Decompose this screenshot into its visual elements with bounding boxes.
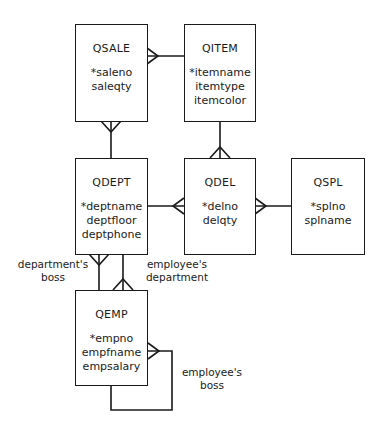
attribute: *itemname bbox=[185, 66, 255, 80]
entity-qdel: QDEL *delno delqty bbox=[184, 158, 256, 255]
attribute: deptphone bbox=[76, 228, 147, 242]
attribute: empsalary bbox=[76, 360, 147, 374]
attribute: deptfloor bbox=[76, 214, 147, 228]
entity-qdept: QDEPT *deptname deptfloor deptphone bbox=[75, 158, 148, 255]
entity-name: QDEPT bbox=[76, 176, 147, 189]
label-employees-department: employee's department bbox=[140, 258, 214, 284]
entity-qitem: QITEM *itemname itemtype itemcolor bbox=[184, 24, 256, 122]
attribute: splname bbox=[292, 214, 364, 228]
label-employees-boss: employee's boss bbox=[180, 366, 244, 392]
entity-name: QEMP bbox=[76, 308, 147, 321]
entity-name: QSALE bbox=[76, 42, 147, 55]
entity-qspl: QSPL *splno splname bbox=[291, 158, 365, 255]
attribute: *empno bbox=[76, 332, 147, 346]
entity-name: QSPL bbox=[292, 176, 364, 189]
entity-name: QITEM bbox=[185, 42, 255, 55]
entity-qemp: QEMP *empno empfname empsalary bbox=[75, 290, 148, 386]
entity-name: QDEL bbox=[185, 176, 255, 189]
label-departments-boss: department's boss bbox=[14, 258, 92, 284]
attribute: *deptname bbox=[76, 200, 147, 214]
attribute: delqty bbox=[185, 214, 255, 228]
attribute: *delno bbox=[185, 200, 255, 214]
attribute: empfname bbox=[76, 346, 147, 360]
entity-qsale: QSALE *saleno saleqty bbox=[75, 24, 148, 122]
attribute: itemcolor bbox=[185, 94, 255, 108]
attribute: saleqty bbox=[76, 80, 147, 94]
attribute: itemtype bbox=[185, 80, 255, 94]
attribute: *splno bbox=[292, 200, 364, 214]
attribute: *saleno bbox=[76, 66, 147, 80]
